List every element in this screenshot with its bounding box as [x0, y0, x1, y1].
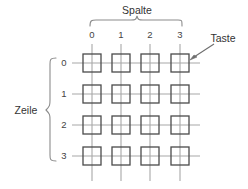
- taste-arrow: [190, 44, 214, 60]
- row-lines-group: [72, 63, 200, 156]
- column-group-label: Spalte: [122, 5, 152, 16]
- column-index-3: 3: [177, 30, 182, 40]
- row-index-3: 3: [61, 151, 66, 161]
- keypad-matrix-diagram: Spalte Zeile Taste 0 1 2 3 0 1 2 3: [0, 0, 248, 189]
- key-squares-group: [83, 54, 189, 165]
- diagram-canvas: [0, 0, 248, 189]
- row-index-1: 1: [61, 89, 66, 99]
- row-index-2: 2: [61, 120, 66, 130]
- column-lines-group: [92, 44, 180, 181]
- row-group-label: Zeile: [15, 105, 38, 116]
- column-brace: [90, 16, 182, 26]
- column-index-0: 0: [89, 30, 94, 40]
- row-brace: [46, 58, 56, 161]
- taste-callout-label: Taste: [210, 33, 235, 44]
- column-index-2: 2: [147, 30, 152, 40]
- column-index-1: 1: [118, 30, 123, 40]
- row-index-0: 0: [61, 58, 66, 68]
